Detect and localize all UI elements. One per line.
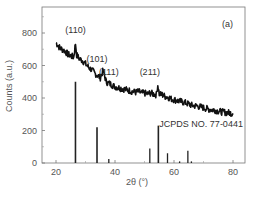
x-axis-title: 2θ (°) [126,177,148,187]
x-tick-label: 20 [51,167,61,177]
y-tick-label: 200 [22,126,37,136]
y-axis-ticks: 0200400600800 [22,17,45,168]
peak-label: (101) [86,54,107,64]
y-axis-title: Counts (a.u.) [4,60,14,112]
peak-label: (211) [140,67,160,77]
reference-label: JCPDS NO. 77-0441 [159,119,243,129]
panel-label: (a) [222,19,233,29]
peak-label: (110) [65,25,85,35]
y-tick-label: 600 [22,61,37,71]
x-tick-label: 60 [169,167,179,177]
xrd-chart: 0200400600800 20406080 (110)(101)(111)(2… [0,0,254,197]
x-tick-label: 80 [228,167,238,177]
y-tick-label: 400 [22,93,37,103]
y-tick-label: 0 [32,158,37,168]
x-tick-label: 40 [110,167,120,177]
x-axis-ticks: 20406080 [51,160,238,177]
peak-label: (111) [99,67,119,77]
xrd-curve [56,43,233,117]
y-tick-label: 800 [22,28,37,38]
